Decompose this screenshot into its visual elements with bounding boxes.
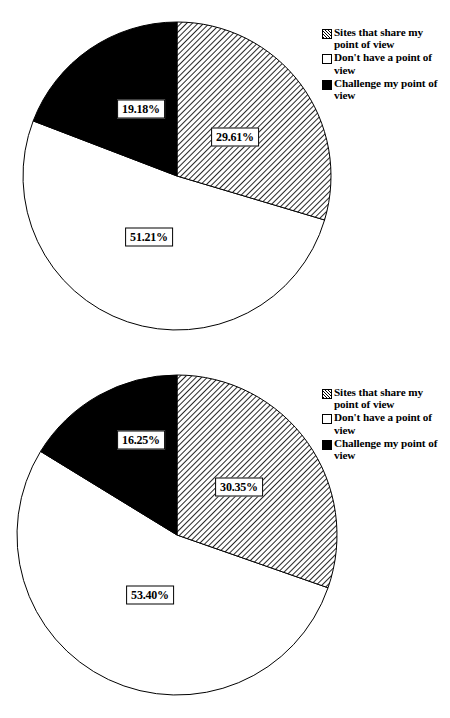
legend-item-challenge-point-of-view[interactable]: Challenge my point of view — [322, 437, 448, 461]
pie-2-label-hatched: 30.35% — [215, 478, 263, 497]
legend-label-share-point-of-view: Sites that share my point of view — [334, 26, 448, 50]
legend-item-share-point-of-view[interactable]: Sites that share my point of view — [322, 386, 448, 410]
pie-1-label-black: 19.18% — [117, 100, 165, 119]
pie-2-legend: Sites that share my point of view Don't … — [322, 386, 448, 462]
legend-item-no-point-of-view[interactable]: Don't have a point of view — [322, 411, 448, 435]
pie-1-label-hatched: 29.61% — [211, 128, 259, 147]
pie-2-label-white: 53.40% — [126, 586, 174, 605]
legend-swatch-white-icon — [322, 414, 332, 424]
legend-label-no-point-of-view: Don't have a point of view — [334, 51, 448, 75]
legend-label-challenge-point-of-view: Challenge my point of view — [334, 77, 448, 101]
pie-2-label-black: 16.25% — [117, 431, 165, 450]
legend-item-share-point-of-view[interactable]: Sites that share my point of view — [322, 26, 448, 50]
pie-1-legend: Sites that share my point of view Don't … — [322, 26, 448, 102]
legend-swatch-hatched-icon — [322, 389, 332, 399]
pie-chart-1: 19.18% 29.61% 51.21% Sites that share my… — [0, 0, 450, 350]
legend-item-no-point-of-view[interactable]: Don't have a point of view — [322, 51, 448, 75]
legend-label-no-point-of-view: Don't have a point of view — [334, 411, 448, 435]
legend-label-challenge-point-of-view: Challenge my point of view — [334, 437, 448, 461]
legend-swatch-black-icon — [322, 80, 332, 90]
legend-swatch-white-icon — [322, 54, 332, 64]
legend-swatch-hatched-icon — [322, 29, 332, 39]
pie-1-label-white: 51.21% — [125, 228, 173, 247]
pie-chart-2: 16.25% 30.35% 53.40% Sites that share my… — [0, 352, 450, 718]
legend-swatch-black-icon — [322, 440, 332, 450]
legend-label-share-point-of-view: Sites that share my point of view — [334, 386, 448, 410]
legend-item-challenge-point-of-view[interactable]: Challenge my point of view — [322, 77, 448, 101]
